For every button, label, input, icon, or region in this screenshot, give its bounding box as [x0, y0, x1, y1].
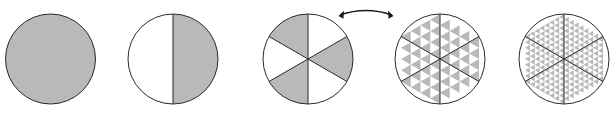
circle-1-full	[6, 14, 96, 104]
circle-3-sectors	[263, 14, 353, 104]
circle-5-fine-triangles	[519, 14, 609, 104]
circle-2-halves	[128, 14, 218, 104]
circle-2-halves-shaded-half	[173, 14, 218, 104]
double-headed-curved-arrow-shaft	[340, 11, 392, 16]
circle-4-triangles	[395, 14, 485, 104]
subdivision-figure	[0, 0, 612, 118]
double-headed-curved-arrow-head	[339, 11, 345, 19]
double-headed-curved-arrow-head	[388, 11, 394, 19]
double-headed-curved-arrow	[339, 11, 394, 19]
figure-canvas	[0, 0, 612, 118]
